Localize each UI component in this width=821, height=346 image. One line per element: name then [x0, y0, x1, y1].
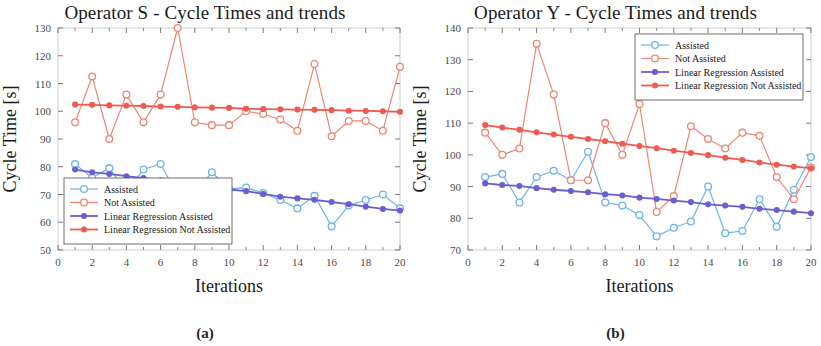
data-point — [637, 195, 642, 200]
data-point — [705, 136, 712, 143]
legend: AssistedNot AssistedLinear Regression As… — [64, 178, 232, 244]
x-tick-label: 4 — [124, 256, 130, 268]
data-point — [346, 202, 351, 207]
y-tick-label: 90 — [40, 133, 52, 145]
data-point — [363, 109, 368, 114]
data-point — [380, 127, 387, 134]
data-point — [534, 186, 539, 191]
data-point — [722, 145, 729, 152]
data-point — [500, 183, 505, 188]
data-point — [636, 212, 643, 219]
data-point — [106, 136, 113, 143]
data-point — [585, 177, 592, 184]
data-point — [381, 207, 386, 212]
data-point — [723, 203, 728, 208]
data-point — [551, 187, 556, 192]
data-point — [774, 208, 779, 213]
x-tick-label: 20 — [806, 256, 818, 268]
y-tick-label: 120 — [35, 50, 52, 62]
data-point — [689, 200, 694, 205]
data-point — [278, 107, 283, 112]
data-point — [191, 119, 198, 126]
data-point — [654, 197, 659, 202]
data-point — [244, 106, 249, 111]
data-point — [175, 104, 180, 109]
data-point — [157, 161, 164, 168]
legend-marker — [82, 214, 87, 219]
x-tick-label: 4 — [534, 256, 540, 268]
data-point — [689, 151, 694, 156]
x-tick-label: 14 — [703, 256, 715, 268]
data-point — [328, 133, 335, 140]
data-point — [482, 129, 489, 136]
data-point — [688, 218, 695, 225]
data-point — [533, 40, 540, 47]
data-point — [398, 109, 403, 114]
data-point — [706, 153, 711, 158]
data-point — [209, 122, 216, 129]
data-point — [551, 132, 556, 137]
data-point — [790, 196, 797, 203]
data-point — [278, 194, 283, 199]
data-point — [602, 199, 609, 206]
plot-area-a: 506070809010011012013002468101214161820I… — [0, 18, 410, 308]
x-tick-label: 16 — [737, 256, 749, 268]
data-point — [107, 103, 112, 108]
data-point — [141, 104, 146, 109]
data-point — [244, 189, 249, 194]
data-point — [620, 193, 625, 198]
data-point — [106, 165, 113, 172]
y-axis-label: Cycle Time [s] — [0, 85, 20, 192]
legend-marker — [653, 70, 658, 75]
data-point — [808, 154, 815, 161]
data-point — [603, 192, 608, 197]
data-point — [107, 172, 112, 177]
y-axis-label: Cycle Time [s] — [410, 85, 430, 192]
data-point — [73, 167, 78, 172]
y-tick-label: 90 — [450, 181, 462, 193]
y-tick-label: 100 — [35, 105, 52, 117]
data-point — [756, 132, 763, 139]
legend-marker — [652, 42, 659, 49]
y-tick-label: 60 — [40, 216, 52, 228]
data-point — [671, 148, 676, 153]
data-point — [773, 223, 780, 230]
series-line — [485, 152, 811, 237]
data-point — [90, 102, 95, 107]
x-tick-label: 8 — [192, 256, 198, 268]
data-point — [603, 139, 608, 144]
sub-caption-a: (a) — [0, 325, 410, 342]
x-tick-label: 2 — [500, 256, 506, 268]
data-point — [774, 162, 779, 167]
data-point — [90, 170, 95, 175]
data-point — [706, 202, 711, 207]
y-tick-label: 80 — [450, 212, 462, 224]
x-tick-label: 18 — [360, 256, 372, 268]
data-point — [688, 123, 695, 130]
y-tick-label: 100 — [445, 149, 462, 161]
x-tick-label: 14 — [292, 256, 304, 268]
data-point — [790, 186, 797, 193]
data-point — [809, 166, 814, 171]
data-point — [295, 196, 300, 201]
data-point — [157, 91, 164, 98]
data-point — [740, 204, 745, 209]
data-point — [311, 61, 318, 68]
y-tick-label: 110 — [445, 117, 462, 129]
x-tick-label: 8 — [602, 256, 608, 268]
data-point — [261, 107, 266, 112]
legend-label: Assisted — [104, 184, 138, 195]
data-point — [210, 105, 215, 110]
y-tick-label: 130 — [445, 54, 462, 66]
data-point — [705, 183, 712, 190]
data-point — [295, 107, 300, 112]
data-point — [500, 125, 505, 130]
data-point — [483, 123, 488, 128]
data-point — [620, 141, 625, 146]
data-point — [516, 199, 523, 206]
data-point — [363, 204, 368, 209]
data-point — [261, 192, 266, 197]
data-point — [73, 102, 78, 107]
data-point — [174, 25, 181, 32]
data-point — [140, 166, 147, 173]
